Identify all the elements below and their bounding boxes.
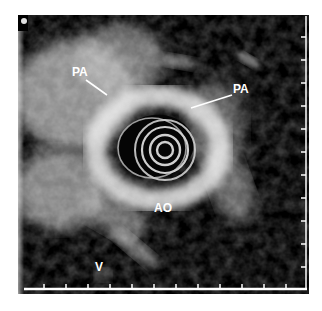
- label-pa-left: PA: [72, 66, 88, 78]
- label-pa-right: PA: [233, 83, 249, 95]
- ultrasound-image: [0, 0, 322, 311]
- label-v: V: [95, 261, 103, 273]
- label-ao: AO: [154, 202, 172, 214]
